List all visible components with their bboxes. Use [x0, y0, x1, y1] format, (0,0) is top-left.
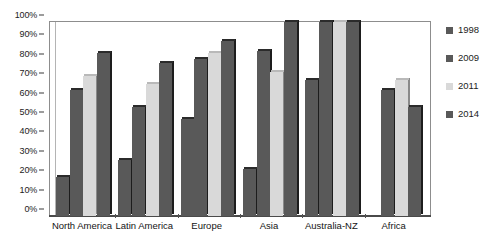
legend-item[interactable]: 1998 [446, 24, 502, 36]
bar-top-face [222, 39, 235, 41]
y-axis-tick-mark [39, 15, 44, 16]
bar-top-face [306, 78, 319, 80]
y-axis-tick-mark [39, 189, 44, 190]
bar-top-face [334, 20, 347, 22]
bar-top-face [382, 88, 395, 90]
legend-label: 2014 [458, 109, 479, 119]
bar-top-face [320, 20, 333, 22]
y-axis-tick-mark [39, 170, 44, 171]
y-axis-tick-mark [39, 131, 44, 132]
legend-item[interactable]: 2014 [446, 108, 502, 120]
bar-top-face [84, 74, 97, 76]
bar-top-face [119, 158, 132, 160]
x-axis-category-label: Asia [260, 220, 278, 232]
bar-body [159, 63, 172, 216]
bar-group [181, 22, 243, 216]
bar-body [221, 41, 234, 216]
y-axis-tick-label: 10% [20, 185, 37, 194]
y-axis: 0%10%20%30%40%50%60%70%80%90%100% [0, 14, 44, 218]
bar [181, 119, 194, 216]
x-axis-group-separator [178, 214, 179, 218]
legend: 1998200920112014 [446, 24, 502, 136]
bar [270, 72, 283, 216]
y-axis-tick-mark [39, 34, 44, 35]
legend-label: 2011 [458, 81, 478, 91]
legend-swatch-icon [446, 83, 453, 90]
bar-top-face [347, 20, 360, 22]
bar [132, 107, 145, 216]
legend-swatch-icon [446, 111, 453, 118]
bar-top-face [147, 82, 160, 84]
legend-item[interactable]: 2011 [446, 80, 502, 92]
y-axis-tick-label: 70% [20, 69, 37, 78]
bar-side-face [359, 20, 361, 214]
bar-body [181, 119, 194, 216]
x-axis-group-separator [115, 214, 116, 218]
bar-top-face [195, 57, 208, 59]
bar [159, 63, 172, 216]
bar-top-face [244, 167, 257, 169]
bar-group [56, 22, 118, 216]
x-axis-category-label: Africa [382, 220, 406, 232]
bar [221, 41, 234, 216]
bar-side-face [421, 105, 423, 214]
x-axis-category-label: Latin America [116, 220, 174, 232]
bar [243, 169, 256, 216]
y-axis-tick-label: 20% [20, 166, 37, 175]
bar [56, 177, 69, 216]
y-axis-tick-mark [39, 73, 44, 74]
bar [83, 76, 96, 216]
bar-body [208, 53, 221, 216]
bar-body [146, 84, 159, 216]
bar-side-face [297, 20, 299, 214]
x-axis-group-separator [365, 214, 366, 218]
y-axis-tick-label: 100% [15, 11, 37, 20]
bar [319, 22, 332, 216]
bar-body [305, 80, 318, 216]
y-axis-tick-label: 80% [20, 49, 37, 58]
x-axis-group-separator [240, 214, 241, 218]
bar-top-face [209, 51, 222, 53]
bar-top-face [133, 105, 146, 107]
bar [346, 22, 359, 216]
bar-top-face [409, 105, 422, 107]
bar-body [408, 107, 421, 216]
bar [408, 107, 421, 216]
bar-body [270, 72, 283, 216]
bar-side-face [110, 51, 112, 214]
bar-side-face [234, 39, 236, 214]
x-axis-group-separator [302, 214, 303, 218]
bar [395, 80, 408, 216]
bar-body [395, 80, 408, 216]
bar-group [118, 22, 180, 216]
bar-body [333, 22, 346, 216]
y-axis-tick-label: 60% [20, 88, 37, 97]
x-axis-labels: North AmericaLatin AmericaEuropeAsiaAust… [49, 220, 437, 238]
y-axis-tick-label: 90% [20, 30, 37, 39]
bar-top-face [182, 117, 195, 119]
bars-layer [56, 22, 430, 216]
legend-label: 2009 [458, 53, 479, 63]
bar-group [243, 22, 305, 216]
bar [257, 51, 270, 216]
x-axis-category-label: Australia-NZ [305, 220, 358, 232]
bar-top-face [71, 88, 84, 90]
y-axis-tick-mark [39, 150, 44, 151]
bar-group [368, 22, 430, 216]
x-axis-category-label: North America [52, 220, 112, 232]
bar [381, 90, 394, 216]
bar-top-face [57, 175, 70, 177]
bar-chart: 0%10%20%30%40%50%60%70%80%90%100% North … [0, 0, 502, 252]
legend-item[interactable]: 2009 [446, 52, 502, 64]
bar-body [284, 22, 297, 216]
bar-body [319, 22, 332, 216]
y-axis-tick-label: 0% [24, 205, 37, 214]
bar-top-face [271, 70, 284, 72]
bar-body [346, 22, 359, 216]
legend-swatch-icon [446, 55, 453, 62]
bar-body [70, 90, 83, 216]
bar [194, 59, 207, 216]
bar [146, 84, 159, 216]
bar-body [118, 160, 131, 216]
bar [333, 22, 346, 216]
